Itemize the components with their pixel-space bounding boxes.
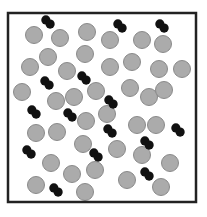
molecule-atom-icon [45, 81, 54, 90]
gray-particle-icon [109, 141, 126, 158]
molecule-atom-icon [109, 100, 118, 109]
gray-particle-icon [119, 172, 136, 189]
gray-particle-icon [87, 162, 104, 179]
molecule-atom-icon [82, 76, 91, 85]
gray-particle-icon [49, 124, 66, 141]
molecule-atom-icon [176, 128, 185, 137]
gray-particle-icon [151, 61, 168, 78]
gray-particle-icon [88, 83, 105, 100]
gray-particle-icon [28, 125, 45, 142]
molecule-atom-icon [145, 172, 154, 181]
gray-particle-icon [155, 36, 172, 53]
gray-particle-icon [156, 82, 173, 99]
gray-particle-icon [75, 136, 92, 153]
molecule-atom-icon [46, 20, 55, 29]
molecule-atom-icon [94, 153, 103, 162]
molecule-atom-icon [108, 129, 117, 138]
molecule-atom-icon [54, 188, 63, 197]
gray-particle-icon [48, 93, 65, 110]
gray-particle-icon [134, 32, 151, 49]
gray-particle-icon [43, 155, 60, 172]
gray-particle-icon [66, 89, 83, 106]
gray-particle-icon [102, 59, 119, 76]
gray-particle-icon [64, 166, 81, 183]
gray-particle-icon [124, 54, 141, 71]
gray-particle-icon [129, 117, 146, 134]
gray-particle-icon [22, 59, 39, 76]
gray-particle-icon [77, 46, 94, 63]
molecule-atom-icon [160, 24, 169, 33]
molecule-atom-icon [32, 110, 41, 119]
molecule-atom-icon [118, 24, 127, 33]
gray-particle-icon [102, 32, 119, 49]
gray-particle-icon [122, 80, 139, 97]
gray-particle-icon [78, 113, 95, 130]
gray-particle-icon [79, 24, 96, 41]
gray-particle-icon [52, 30, 69, 47]
gray-particle-icon [148, 117, 165, 134]
gray-particle-icon [59, 63, 76, 80]
gray-particle-icon [28, 177, 45, 194]
molecule-atom-icon [145, 141, 154, 150]
gray-particle-icon [141, 89, 158, 106]
gray-particle-icon [14, 84, 31, 101]
molecule-atom-icon [68, 113, 77, 122]
molecule-atom-icon [27, 150, 36, 159]
gray-particle-icon [162, 155, 179, 172]
particle-box-diagram [0, 0, 207, 217]
gray-particle-icon [153, 179, 170, 196]
gray-particle-icon [77, 184, 94, 201]
gray-particle-icon [40, 49, 57, 66]
particle-diagram [0, 0, 207, 217]
gray-particle-icon [174, 61, 191, 78]
gray-particle-icon [26, 27, 43, 44]
